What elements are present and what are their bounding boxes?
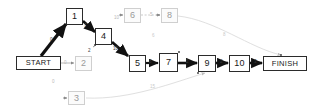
edge-label-start-2: 0 [64,61,67,66]
node-6[interactable]: 6 [124,8,141,23]
node-finish-label: FINISH [272,60,298,68]
edge-label-start-3: 0 [52,80,55,85]
node-3[interactable]: 3 [68,91,85,105]
edge-label-start-1: 0 [50,38,53,43]
node-1[interactable]: 1 [66,8,83,25]
node-start[interactable]: START [16,56,61,70]
node-8-label: 8 [167,11,172,20]
edge-8-finish [178,16,281,55]
node-4[interactable]: 4 [95,28,112,45]
node-2[interactable]: 2 [75,56,92,71]
edge-label-5-7: 8 [149,60,152,65]
node-5-label: 5 [135,59,140,68]
edge-label-2-4: 2 [88,49,91,54]
node-9[interactable]: 9 [198,55,216,72]
edge-label-10-finish: 3 [254,60,257,65]
edge-start-1 [41,24,66,56]
edge-label-6-8: 5 [150,13,153,18]
edge-label-4-5: 10 [113,47,118,52]
node-4-label: 4 [101,32,106,41]
edge-label-9-10: 2 [220,60,223,65]
edge-label-1-4: 7 [84,24,87,29]
edge-label-mid-note: 6 [152,34,155,39]
node-8[interactable]: 8 [161,8,178,23]
node-7-label: 7 [166,58,171,67]
node-2-label: 2 [81,59,86,68]
node-10-label: 10 [234,59,244,68]
edge-3-9 [86,73,205,98]
network-diagram: START 1 2 3 4 5 6 7 8 9 10 FINISH 0 0 0 … [0,0,319,111]
node-6-label: 6 [130,11,135,20]
node-start-label: START [26,59,51,67]
node-3-label: 3 [74,94,79,103]
node-5[interactable]: 5 [129,55,146,72]
edge-label-in-6: 10 [114,16,119,21]
node-7[interactable]: 7 [159,53,178,72]
node-10[interactable]: 10 [229,55,250,72]
edge-label-8-finish: 8 [223,33,226,38]
node-1-label: 1 [72,12,77,21]
node-finish[interactable]: FINISH [263,56,307,71]
node-9-label: 9 [204,59,209,68]
edge-label-7-9: 2 [186,60,189,65]
edge-label-3-9: 15 [150,85,155,90]
